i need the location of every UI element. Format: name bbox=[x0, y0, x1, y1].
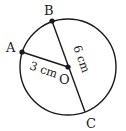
diagram-canvas: A B O C 3 cm 6 cm bbox=[0, 0, 126, 131]
radius-length-label: 3 cm bbox=[28, 59, 59, 81]
point-o bbox=[65, 64, 70, 69]
point-b bbox=[49, 18, 54, 23]
diameter-length-label: 6 cm bbox=[70, 43, 93, 74]
label-b: B bbox=[44, 3, 54, 18]
circle-diagram: A B O C 3 cm 6 cm bbox=[0, 0, 126, 131]
point-a bbox=[19, 49, 24, 54]
label-o: O bbox=[59, 72, 70, 87]
label-c: C bbox=[86, 116, 96, 131]
label-a: A bbox=[5, 40, 16, 55]
